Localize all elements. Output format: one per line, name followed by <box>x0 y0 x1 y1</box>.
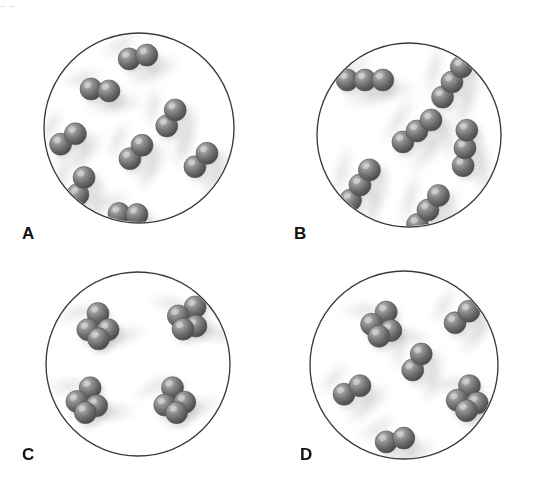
atom <box>88 328 110 350</box>
atom <box>372 69 394 91</box>
atom <box>164 99 186 121</box>
molecule <box>108 203 151 230</box>
atom <box>368 325 390 347</box>
panel-label-a: A <box>22 225 34 242</box>
atom-sphere <box>458 300 480 322</box>
atom-sphere <box>420 109 442 131</box>
atom <box>349 375 371 397</box>
atom <box>73 167 95 189</box>
atom-sphere <box>196 142 218 164</box>
atom-sphere <box>64 123 86 145</box>
atom-sphere <box>427 185 449 207</box>
atom-sphere <box>98 80 120 102</box>
atom-sphere <box>88 328 110 350</box>
molecule <box>452 119 481 180</box>
panel-label-c: C <box>22 446 34 463</box>
atom <box>420 109 442 131</box>
flask-interior-c <box>46 272 230 456</box>
atom <box>172 318 194 340</box>
panel-d <box>308 271 526 481</box>
panel-label-d: D <box>300 446 312 463</box>
panel-label-b: B <box>294 225 306 242</box>
atom-sphere <box>455 400 477 422</box>
atom <box>358 159 380 181</box>
atom-sphere <box>456 119 478 141</box>
atom-sphere <box>166 402 188 424</box>
atom-sphere <box>164 99 186 121</box>
atom-sphere <box>172 318 194 340</box>
figure-container: A B C D <box>0 0 537 495</box>
atom <box>456 119 478 141</box>
atom <box>427 185 449 207</box>
atom-sphere <box>131 134 153 156</box>
molecule <box>336 69 397 95</box>
atom-sphere <box>410 343 432 365</box>
panel-b <box>309 32 501 272</box>
atom-sphere <box>372 69 394 91</box>
atom <box>74 402 96 424</box>
atom-sphere <box>136 44 158 66</box>
atom <box>393 427 415 449</box>
atom <box>410 343 432 365</box>
atom <box>455 400 477 422</box>
atom <box>166 402 188 424</box>
atom <box>64 123 86 145</box>
atom-sphere <box>393 427 415 449</box>
atom <box>196 142 218 164</box>
atom <box>136 44 158 66</box>
panel-a <box>25 21 244 247</box>
atom <box>98 80 120 102</box>
atom-sphere <box>368 325 390 347</box>
panel-c <box>37 272 248 456</box>
atom <box>458 300 480 322</box>
atom-sphere <box>358 159 380 181</box>
atom <box>131 134 153 156</box>
atom-sphere <box>349 375 371 397</box>
atom-sphere <box>74 402 96 424</box>
molecular-diagram-svg <box>0 0 537 495</box>
atom-sphere <box>73 167 95 189</box>
